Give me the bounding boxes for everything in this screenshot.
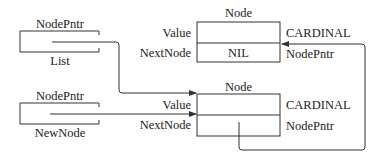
- bottom-node-nextnode-type: NodePntr: [286, 119, 334, 133]
- bottom-node-value-field-name: Value: [120, 98, 191, 112]
- top-node-nextnode-value: NIL: [197, 46, 280, 60]
- top-node-value-type: CARDINAL: [286, 26, 351, 40]
- newnode-name-label: NewNode: [20, 126, 100, 140]
- top-node-value-field-name: Value: [120, 26, 191, 40]
- bottom-node-value-type: CARDINAL: [286, 98, 351, 112]
- top-node-nextnode-type: NodePntr: [286, 47, 334, 61]
- top-node-title: Node: [197, 6, 280, 20]
- bottom-node-title: Node: [197, 80, 280, 94]
- list-type-label: NodePntr: [20, 17, 100, 31]
- bottom-node-nextnode-field-name: NextNode: [100, 118, 191, 132]
- list-name-label: List: [20, 54, 100, 68]
- top-node-nextnode-field-name: NextNode: [100, 46, 191, 60]
- newnode-type-label: NodePntr: [20, 89, 100, 103]
